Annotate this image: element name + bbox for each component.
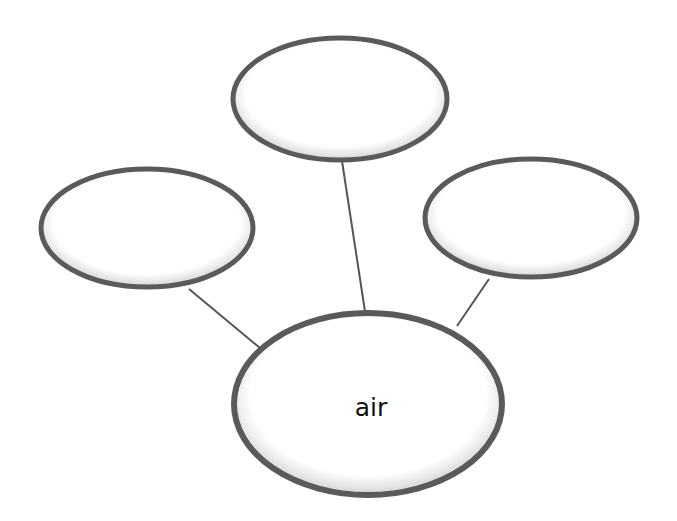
connector-top	[342, 161, 366, 318]
satellite-bubble-right[interactable]	[425, 159, 637, 277]
connector-right	[457, 279, 489, 326]
connector-left	[189, 289, 266, 353]
concept-web-diagram: air	[0, 0, 677, 521]
satellite-bubble-left[interactable]	[41, 169, 253, 287]
center-bubble-label: air	[355, 393, 388, 422]
satellite-bubble-top[interactable]	[233, 38, 447, 160]
